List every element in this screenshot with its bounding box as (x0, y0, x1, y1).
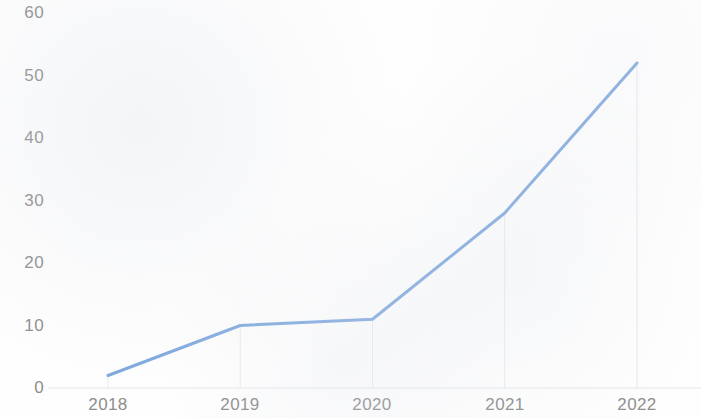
x-tick-label-2021: 2021 (465, 395, 545, 415)
x-tick-label-2019: 2019 (200, 395, 280, 415)
vertical-gridlines-group (108, 63, 637, 388)
line-chart-figure: 60 50 40 30 20 10 0 2018 2019 2020 2021 … (0, 0, 701, 418)
y-tick-label-60: 60 (0, 3, 44, 23)
y-tick-label-20: 20 (0, 253, 44, 273)
x-tick-label-2018: 2018 (68, 395, 148, 415)
y-tick-label-0: 0 (0, 378, 44, 398)
x-tick-label-2020: 2020 (332, 395, 412, 415)
y-tick-label-50: 50 (0, 66, 44, 86)
y-tick-label-30: 30 (0, 191, 44, 211)
chart-plot-area (0, 0, 701, 418)
y-tick-label-40: 40 (0, 128, 44, 148)
x-tick-label-2022: 2022 (597, 395, 677, 415)
y-tick-label-10: 10 (0, 316, 44, 336)
